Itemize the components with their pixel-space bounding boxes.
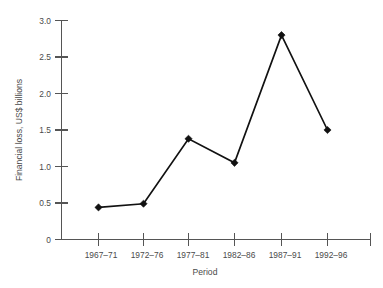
- x-tick-label-0: 1967–71: [85, 250, 118, 260]
- x-tick-label-1: 1972–76: [131, 250, 164, 260]
- x-axis-tick-labels: 1967–71 1972–76 1977–81 1982–86 1987–91 …: [85, 250, 348, 260]
- x-tick-label-2: 1977–81: [177, 250, 210, 260]
- data-point-marker: [95, 204, 102, 211]
- data-point-marker: [324, 126, 331, 133]
- y-tick-label-0: 0: [46, 235, 51, 245]
- x-axis-title: Period: [193, 267, 218, 277]
- y-tick-label-2.0: 2.0: [39, 89, 51, 99]
- y-tick-label-1.0: 1.0: [39, 162, 51, 172]
- series-markers: [95, 32, 331, 211]
- series-line: [99, 35, 328, 207]
- y-tick-label-3.0: 3.0: [39, 16, 51, 26]
- x-tick-label-4: 1987–91: [269, 250, 302, 260]
- chart-canvas: 3.0 2.5 2.0 1.5 1.0 0.5 0 1967–71 1972–7…: [0, 0, 383, 288]
- y-tick-label-1.5: 1.5: [39, 125, 51, 135]
- data-point-marker: [278, 32, 285, 39]
- x-tick-label-5: 1992–96: [315, 250, 348, 260]
- y-axis-tick-labels: 3.0 2.5 2.0 1.5 1.0 0.5 0: [39, 16, 51, 245]
- x-tick-label-3: 1982–86: [223, 250, 256, 260]
- y-tick-label-2.5: 2.5: [39, 52, 51, 62]
- y-axis-title: Financial loss, US$ billions: [14, 79, 24, 181]
- line-chart: 3.0 2.5 2.0 1.5 1.0 0.5 0 1967–71 1972–7…: [0, 0, 383, 288]
- y-tick-label-0.5: 0.5: [39, 198, 51, 208]
- data-point-marker: [231, 159, 238, 166]
